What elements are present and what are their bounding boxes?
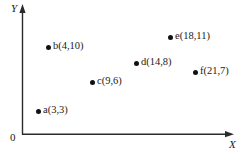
data-point-marker	[193, 70, 198, 75]
data-point-marker	[134, 61, 139, 66]
origin-label: 0	[10, 132, 16, 143]
data-point-label: c(9,6)	[97, 76, 122, 87]
x-axis-label: X	[229, 139, 236, 150]
data-point-label: e(18,11)	[175, 31, 210, 42]
data-point-marker	[46, 45, 51, 50]
data-point-marker	[168, 35, 173, 40]
data-point-marker	[90, 80, 95, 85]
data-point-label: f(21,7)	[200, 66, 229, 77]
data-point-label: a(3,3)	[43, 105, 68, 116]
x-axis-arrowhead	[225, 131, 234, 137]
scatter-plot-figure: Y X 0 a(3,3) b(4,10) c(9,6) d(14,8) e(18…	[0, 0, 243, 156]
y-axis-arrowhead	[19, 4, 25, 13]
y-axis-label: Y	[11, 3, 17, 14]
data-point-marker	[36, 109, 41, 114]
data-point-label: d(14,8)	[141, 57, 172, 68]
data-point-label: b(4,10)	[53, 41, 84, 52]
